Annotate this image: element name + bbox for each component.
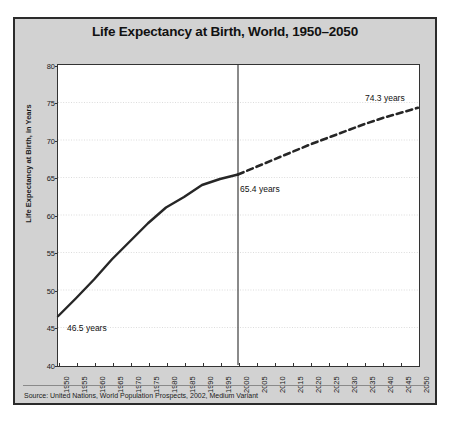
chart-plot-svg [58, 65, 418, 365]
x-tick-mark [149, 363, 150, 367]
x-tick-mark [131, 363, 132, 367]
y-axis-ticks: 404550556065707580 [37, 64, 55, 367]
x-tick-mark [167, 363, 168, 367]
chart-title: Life Expectancy at Birth, World, 1950–20… [15, 24, 435, 39]
x-tick-mark [77, 363, 78, 367]
plot-area [57, 64, 420, 367]
x-tick-mark [401, 363, 402, 367]
y-tick-label: 60 [47, 211, 55, 220]
source-note: Source: United Nations, World Population… [24, 392, 258, 399]
source-divider [23, 385, 427, 386]
y-tick-label: 50 [47, 286, 55, 295]
y-tick-label: 45 [47, 324, 55, 333]
plot-inner [58, 65, 419, 366]
data-annotation: 46.5 years [67, 323, 107, 333]
y-tick-label: 40 [47, 361, 55, 370]
x-tick-mark [419, 363, 420, 367]
y-tick-label: 65 [47, 174, 55, 183]
x-tick-mark [257, 363, 258, 367]
x-tick-mark [239, 363, 240, 367]
x-tick-mark [347, 363, 348, 367]
data-annotation: 74.3 years [365, 93, 405, 103]
y-tick-label: 70 [47, 136, 55, 145]
x-tick-mark [59, 363, 60, 367]
y-tick-label: 55 [47, 249, 55, 258]
x-tick-mark [221, 363, 222, 367]
chart-figure: Life Expectancy at Birth, World, 1950–20… [13, 17, 437, 405]
x-tick-mark [95, 363, 96, 367]
y-tick-label: 75 [47, 99, 55, 108]
x-tick-mark [185, 363, 186, 367]
x-tick-mark [203, 363, 204, 367]
x-tick-mark [383, 363, 384, 367]
y-axis-title: Life Expectancy at Birth, in Years [24, 89, 33, 239]
x-tick-mark [275, 363, 276, 367]
data-annotation: 65.4 years [240, 184, 280, 194]
y-tick-label: 80 [47, 61, 55, 70]
x-tick-mark [365, 363, 366, 367]
x-tick-mark [293, 363, 294, 367]
x-tick-mark [329, 363, 330, 367]
x-tick-mark [311, 363, 312, 367]
x-tick-mark [113, 363, 114, 367]
